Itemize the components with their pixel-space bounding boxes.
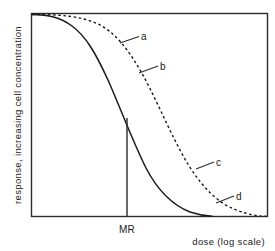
reference-curve [32,15,212,217]
shifted-curve [32,15,266,217]
y-axis-label: response, increasing cell concentration [12,26,23,204]
mr-marker-label: MR [119,224,135,235]
leader-line-b [139,66,158,73]
leader-line-c [196,162,214,169]
dose-response-figure: a b c d MR dose (log scale) response, in… [0,0,275,251]
dose-response-chart: a b c d MR dose (log scale) response, in… [0,0,275,251]
plot-frame [32,14,268,217]
curve-label-a: a [141,31,147,42]
curve-label-b: b [160,61,166,72]
curve-label-c: c [216,157,221,168]
curve-label-d: d [236,191,242,202]
x-axis-label: dose (log scale) [192,236,265,247]
leader-line-a [120,37,139,44]
